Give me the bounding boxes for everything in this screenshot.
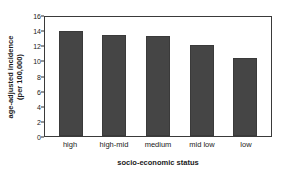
y-axis-title: age-adjusted incidence (per 100,000)	[4, 16, 26, 138]
x-tick-label: high	[48, 140, 92, 152]
y-axis-tick-labels: 0246810121416	[24, 14, 44, 140]
x-tick-label: mid low	[180, 140, 224, 152]
x-tick-label: medium	[136, 140, 180, 152]
y-tick-label: 16	[33, 13, 41, 20]
plot-area	[44, 16, 272, 137]
bar	[146, 36, 170, 136]
x-tick-label: high-mid	[92, 140, 136, 152]
y-axis-title-line1: age-adjusted incidence	[6, 36, 15, 119]
y-axis-title-line2: (per 100,000)	[15, 36, 24, 119]
y-tick-label: 10	[33, 58, 41, 65]
bar	[190, 45, 214, 136]
bar	[233, 58, 257, 136]
x-tick-label: low	[224, 140, 268, 152]
bar-chart-figure: age-adjusted incidence (per 100,000) 024…	[0, 0, 285, 179]
x-axis-tick-labels: highhigh-midmediummid lowlow	[44, 140, 272, 152]
bar	[102, 35, 126, 136]
y-tick-label: 14	[33, 28, 41, 35]
y-tick-label: 12	[33, 43, 41, 50]
bar-series	[45, 17, 271, 136]
bar	[59, 31, 83, 136]
x-axis-title: socio-economic status	[44, 158, 272, 167]
